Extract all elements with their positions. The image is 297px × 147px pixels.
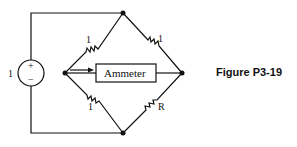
top-wire: [31, 13, 123, 60]
bottom-wire: [31, 86, 123, 133]
source-plus-label: +: [28, 60, 34, 71]
resistor-bottom-right-label: R: [158, 101, 165, 112]
resistor-top-right-label: 1: [158, 33, 163, 44]
source-value-label: 1: [8, 68, 13, 79]
resistor-bottom-left-label: 1: [88, 101, 93, 112]
resistor-top-left-label: 1: [86, 34, 91, 45]
node-bottom: [121, 131, 126, 136]
ammeter-label: Ammeter: [104, 67, 146, 79]
figure-caption: Figure P3-19: [216, 66, 282, 78]
node-top: [121, 11, 126, 16]
node-left: [63, 71, 68, 76]
arrowhead-icon: [88, 68, 94, 73]
node-right: [180, 71, 185, 76]
source-minus-label: −: [28, 74, 34, 85]
